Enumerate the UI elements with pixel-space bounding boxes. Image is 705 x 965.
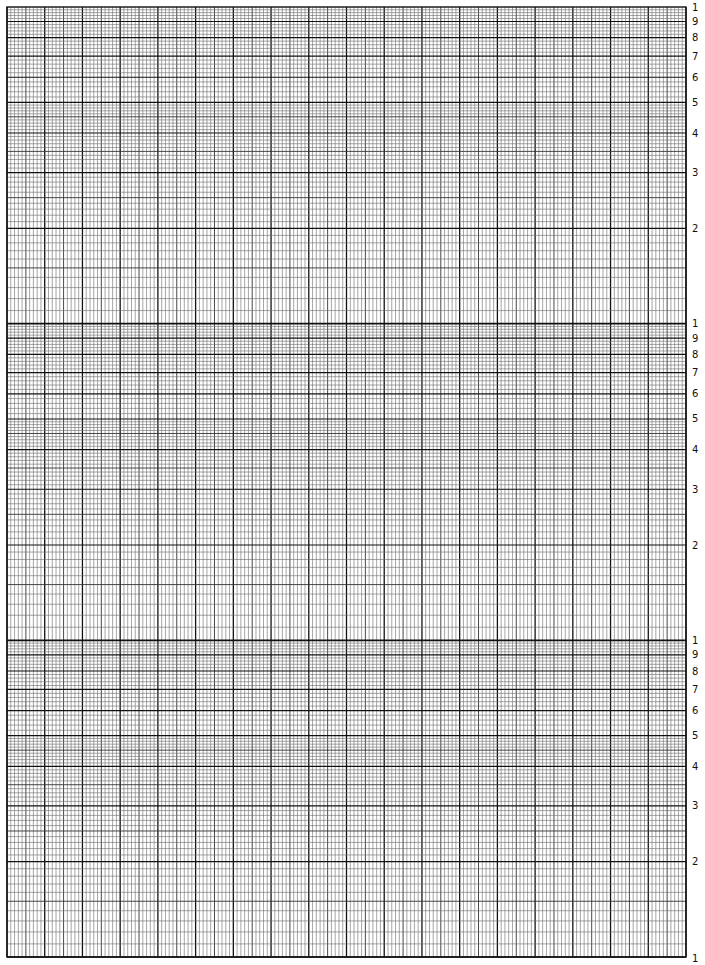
- log-scale-labels: 1987654321987654321987654321: [692, 2, 698, 965]
- semi-log-graph-paper: 1987654321987654321987654321: [0, 0, 705, 965]
- log-scale-label: 2: [692, 540, 698, 551]
- log-scale-label: 9: [692, 649, 698, 660]
- log-scale-label: 1: [692, 635, 698, 646]
- log-scale-label: 2: [692, 223, 698, 234]
- log-scale-label: 5: [692, 97, 698, 108]
- log-scale-label: 4: [692, 761, 698, 772]
- log-scale-label: 8: [692, 32, 698, 43]
- log-scale-label: 8: [692, 349, 698, 360]
- log-scale-label: 6: [692, 72, 698, 83]
- log-scale-label: 9: [692, 16, 698, 27]
- log-scale-label: 5: [692, 413, 698, 424]
- log-scale-label: 6: [692, 705, 698, 716]
- log-scale-label: 7: [692, 684, 698, 695]
- log-scale-label: 3: [692, 167, 698, 178]
- log-scale-label: 9: [692, 333, 698, 344]
- log-scale-label-bottom: 1: [692, 953, 698, 964]
- log-scale-label: 5: [692, 730, 698, 741]
- log-scale-label: 7: [692, 51, 698, 62]
- log-scale-label: 3: [692, 484, 698, 495]
- log-scale-label: 6: [692, 388, 698, 399]
- log-scale-label: 3: [692, 800, 698, 811]
- log-scale-label: 1: [692, 2, 698, 13]
- log-scale-label: 1: [692, 318, 698, 329]
- log-scale-label: 4: [692, 128, 698, 139]
- log-scale-label: 7: [692, 367, 698, 378]
- log-scale-label: 4: [692, 444, 698, 455]
- vertical-grid-lines: [7, 7, 686, 957]
- log-scale-label: 2: [692, 856, 698, 867]
- log-scale-label: 8: [692, 666, 698, 677]
